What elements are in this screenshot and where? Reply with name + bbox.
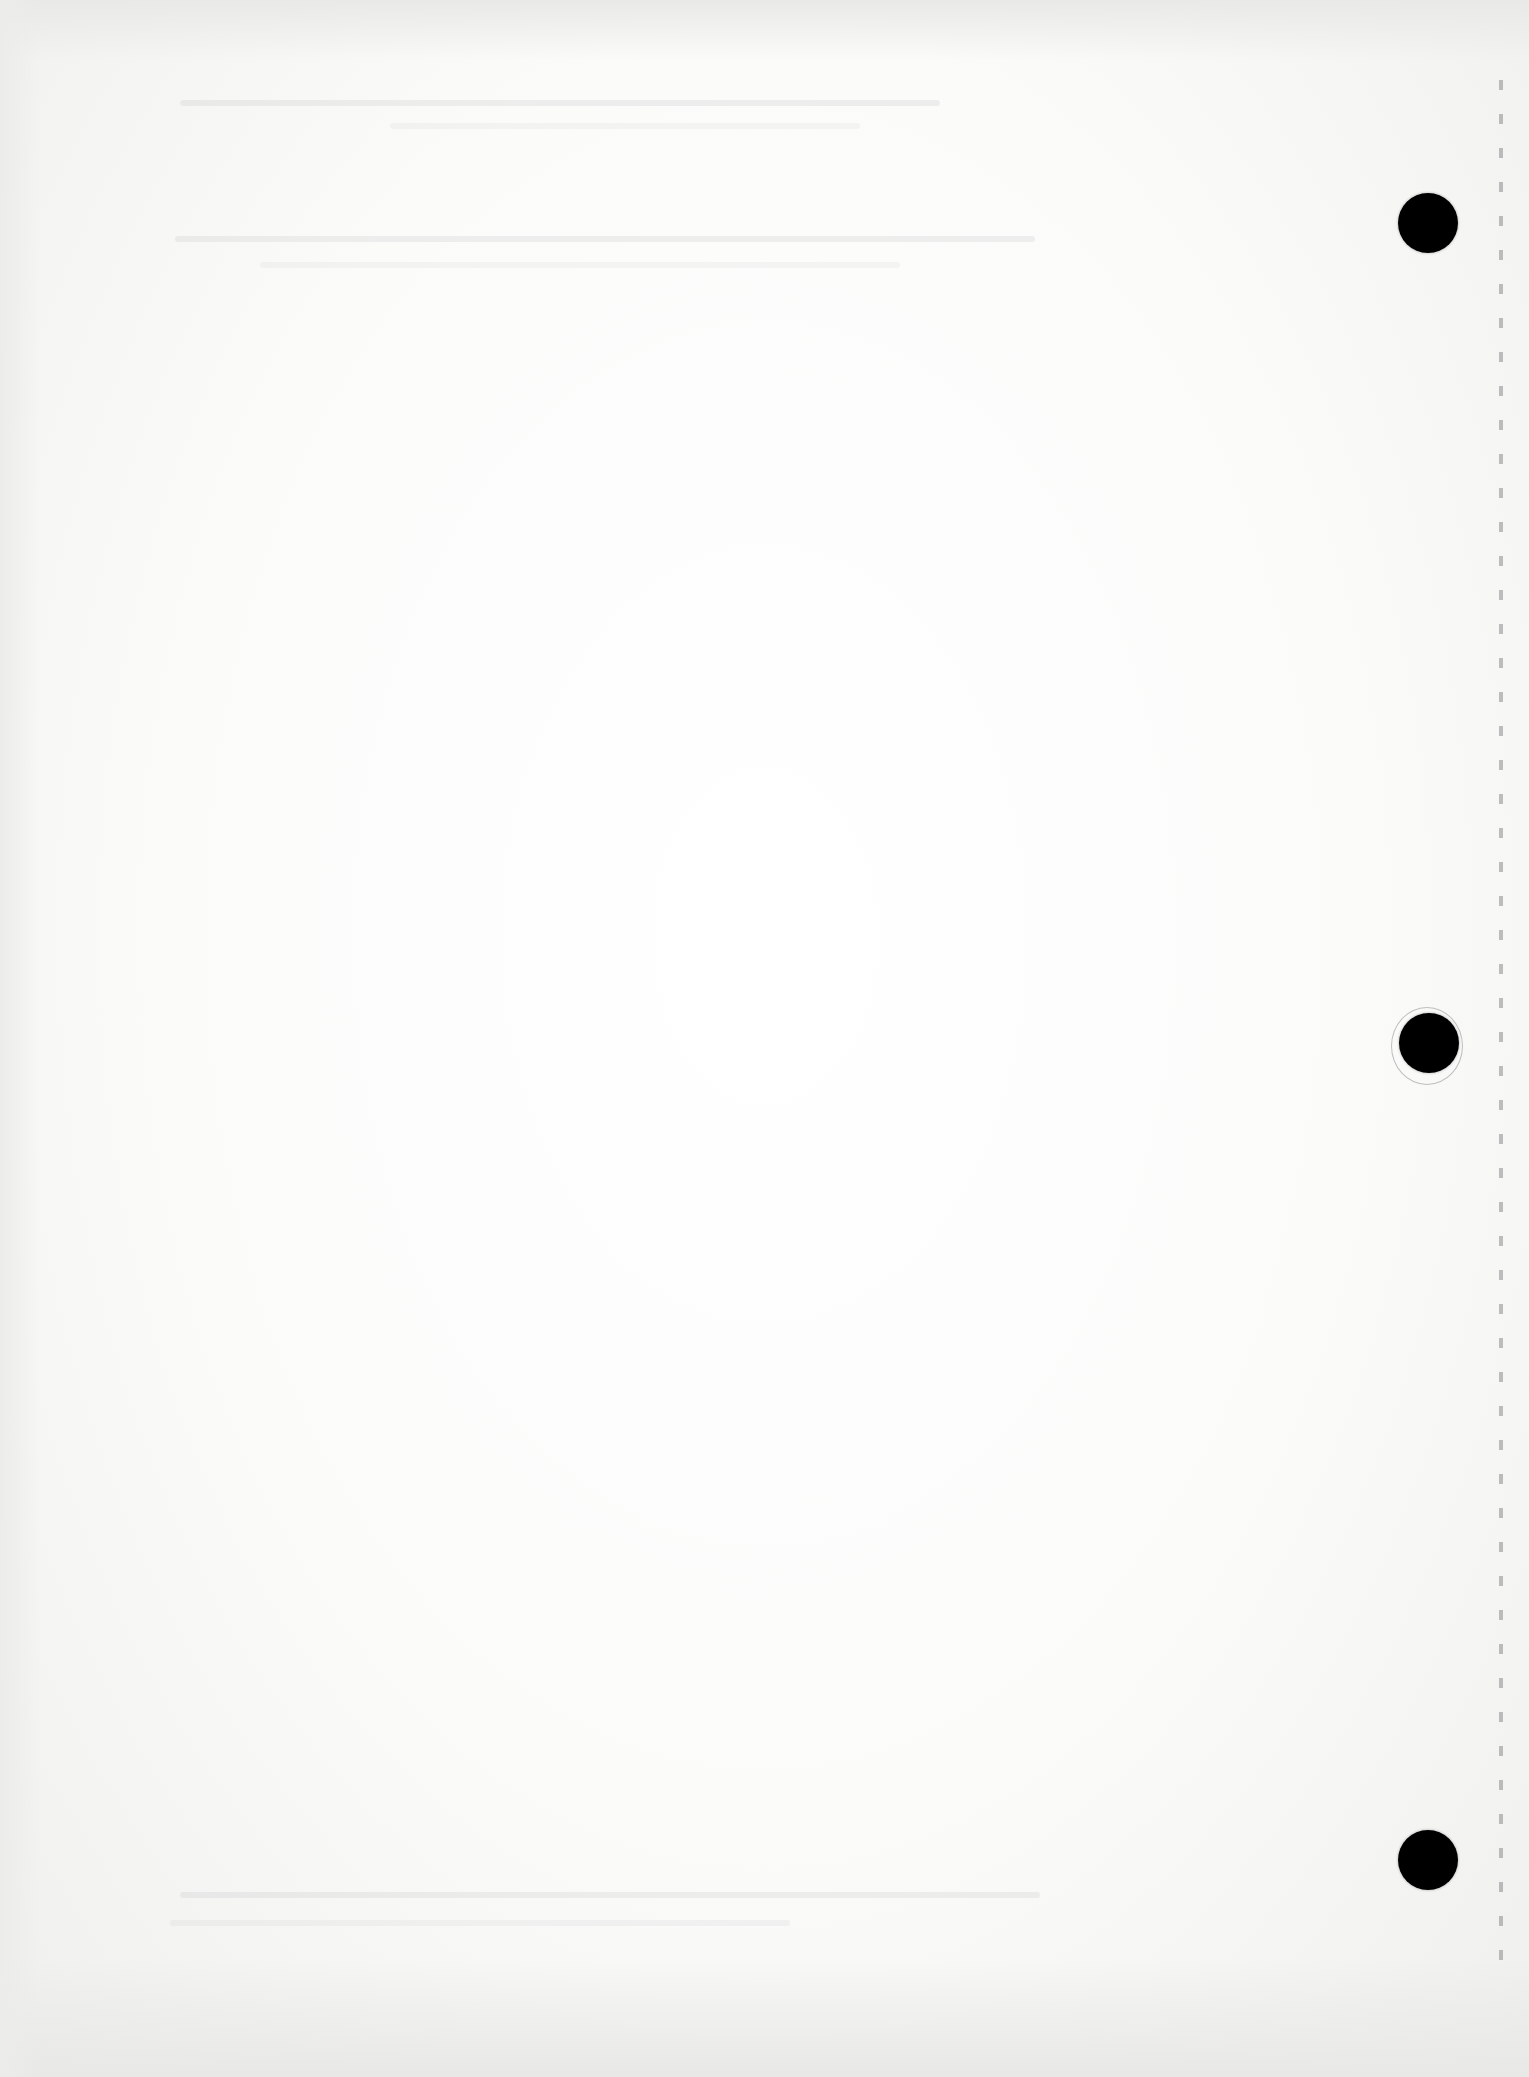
binder-hole-middle	[1399, 1013, 1459, 1073]
perforated-edge	[1499, 80, 1503, 1980]
bleed-through-mark	[390, 123, 860, 129]
bleed-through-mark	[175, 236, 1035, 242]
page-shadow-bottom	[0, 1957, 1529, 2077]
binder-hole-bottom	[1398, 1830, 1458, 1890]
binder-hole-top	[1398, 193, 1458, 253]
bleed-through-mark	[180, 1892, 1040, 1898]
bleed-through-mark	[170, 1920, 790, 1926]
bleed-through-mark	[260, 262, 900, 268]
scanned-page	[0, 0, 1529, 2077]
page-shadow-left	[0, 0, 40, 2077]
bleed-through-mark	[180, 100, 940, 106]
page-shadow-top	[0, 0, 1529, 60]
